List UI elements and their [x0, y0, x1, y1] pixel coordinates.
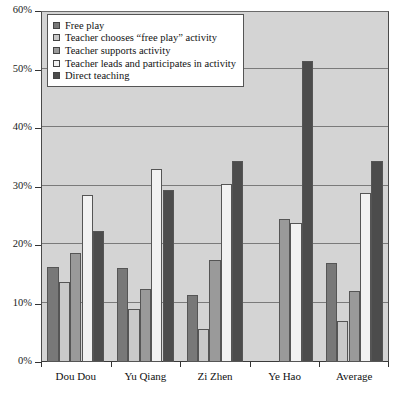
y-axis: 0%10%20%30%40%50%60% — [0, 0, 41, 397]
bar — [371, 161, 382, 362]
y-tick-label-30: 30% — [13, 181, 32, 191]
x-category-label-ye-hao: Ye Hao — [250, 370, 320, 383]
x-tick-mark — [111, 362, 112, 367]
bar — [232, 161, 243, 362]
legend-swatch-teacher-supports — [53, 47, 60, 54]
legend-label: Teacher supports activity — [65, 45, 170, 56]
x-category-label-zi-zhen: Zi Zhen — [180, 370, 250, 383]
bar — [128, 309, 139, 362]
bar — [82, 195, 93, 362]
legend-swatch-free-play — [53, 22, 60, 29]
bar — [59, 282, 70, 362]
bar — [151, 169, 162, 362]
x-tick-mark — [250, 362, 251, 367]
legend-label: Teacher leads and participates in activi… — [65, 58, 236, 69]
bar — [221, 184, 232, 362]
x-category-label-average: Average — [319, 370, 389, 383]
figure-caption — [14, 389, 394, 397]
x-tick-mark — [180, 362, 181, 367]
bar-chart: 0%10%20%30%40%50%60% Dou DouYu QiangZi Z… — [0, 0, 402, 397]
y-tick-label-20: 20% — [13, 239, 32, 249]
y-tick-label-50: 50% — [13, 64, 32, 74]
x-tick-mark — [41, 362, 42, 367]
bar — [70, 253, 81, 362]
bar — [326, 263, 337, 362]
bar — [279, 219, 290, 362]
legend-label: Teacher chooses “free play” activity — [65, 32, 217, 43]
bar — [290, 223, 301, 362]
bar — [209, 260, 220, 362]
legend-label: Direct teaching — [65, 70, 129, 81]
legend-item: Teacher chooses “free play” activity — [53, 32, 236, 45]
bar — [163, 190, 174, 362]
bar — [349, 291, 360, 362]
legend-swatch-direct-teaching — [53, 72, 60, 79]
bar — [198, 329, 209, 362]
legend-item: Teacher leads and participates in activi… — [53, 57, 236, 70]
legend-swatch-teacher-chooses — [53, 34, 60, 41]
x-axis: Dou DouYu QiangZi ZhenYe HaoAverage — [41, 362, 389, 392]
x-tick-mark — [319, 362, 320, 367]
bar — [47, 267, 58, 362]
x-tick-mark — [388, 362, 389, 367]
legend-item: Teacher supports activity — [53, 44, 236, 57]
legend-item: Direct teaching — [53, 69, 236, 82]
y-tick-label-10: 10% — [13, 298, 32, 308]
y-tick-label-0: 0% — [18, 356, 32, 366]
bar — [360, 193, 371, 362]
y-tick-label-60: 60% — [13, 5, 32, 15]
bar — [337, 321, 348, 362]
legend-swatch-teacher-leads — [53, 60, 60, 67]
bar — [93, 231, 104, 362]
legend-item: Free play — [53, 19, 236, 32]
y-tick-label-40: 40% — [13, 122, 32, 132]
x-category-label-yu-qiang: Yu Qiang — [111, 370, 181, 383]
bar — [302, 61, 313, 362]
bar — [140, 289, 151, 362]
bar — [187, 295, 198, 362]
x-category-label-dou-dou: Dou Dou — [41, 370, 111, 383]
bar — [117, 268, 128, 362]
legend-label: Free play — [65, 20, 104, 31]
chart-legend: Free playTeacher chooses “free play” act… — [47, 14, 244, 87]
